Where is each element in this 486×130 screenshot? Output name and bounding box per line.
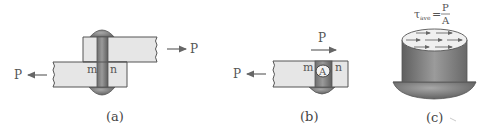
plane-label-m: m bbox=[87, 63, 98, 76]
panel-a: m n P P (a) bbox=[14, 30, 198, 124]
area-label-A: A bbox=[318, 66, 327, 77]
caption-c: (c) bbox=[426, 110, 443, 125]
numerator-P: P bbox=[442, 2, 449, 13]
force-label-left: P bbox=[14, 68, 22, 82]
caption-a: (a) bbox=[106, 109, 124, 124]
force-label-right: P bbox=[190, 42, 198, 56]
upper-plate bbox=[83, 37, 157, 62]
force-label-left-b: P bbox=[233, 67, 241, 81]
panel-c: τ ave = P A (c) bbox=[393, 2, 476, 125]
denominator-A: A bbox=[441, 15, 450, 26]
plane-label-n-b: n bbox=[335, 61, 342, 74]
tau-subscript: ave bbox=[420, 14, 431, 21]
force-label-top: P bbox=[318, 31, 326, 45]
rivet-head-bottom bbox=[89, 87, 115, 95]
plane-label-m-b: m bbox=[303, 61, 314, 74]
caption-b: (b) bbox=[300, 109, 318, 124]
rivet-head-c bbox=[393, 82, 476, 99]
rivet-shear-diagram: m n P P (a) A m n P P (b) τ ave = P A bbox=[0, 0, 486, 130]
rivet-head-bottom-b bbox=[309, 87, 335, 94]
panel-b: A m n P P (b) bbox=[233, 31, 348, 124]
equals-sign: = bbox=[432, 8, 441, 21]
stray-mark bbox=[450, 118, 456, 121]
plane-label-n: n bbox=[110, 63, 117, 76]
